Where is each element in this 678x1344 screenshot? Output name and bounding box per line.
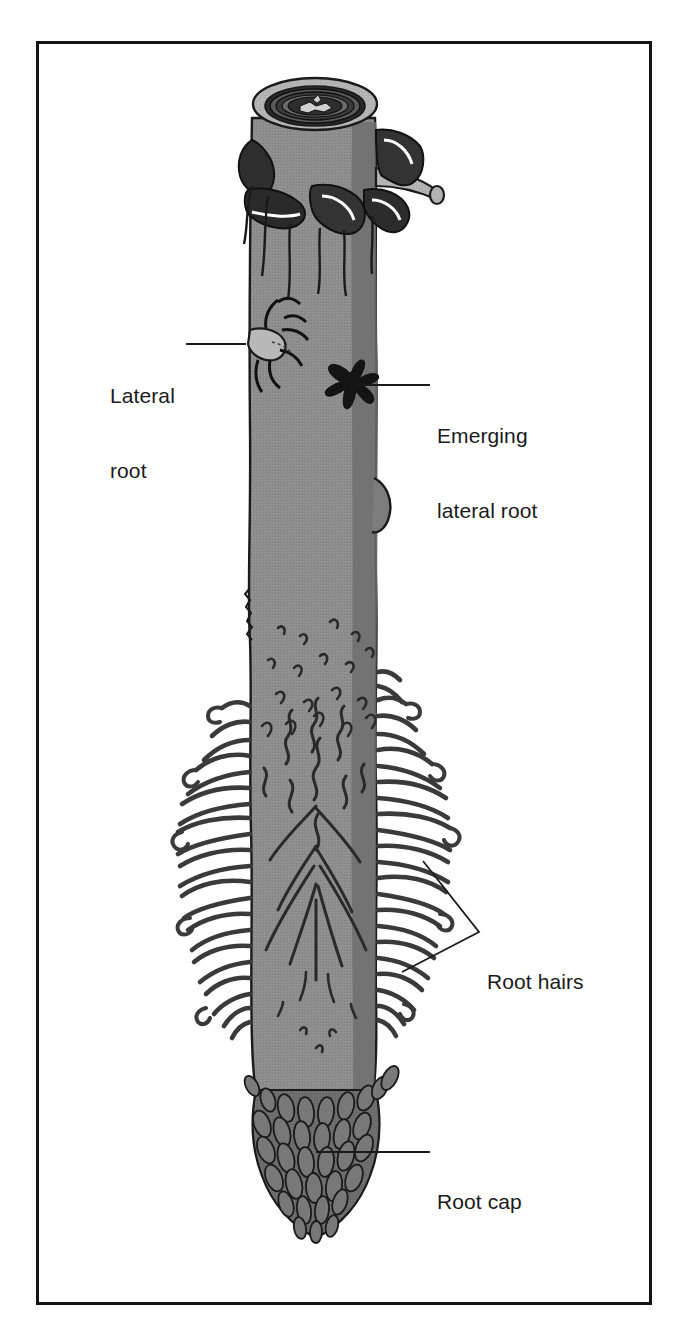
label-root-cap-line1: Root cap [437, 1189, 522, 1214]
label-emerging-lateral-root-line2: lateral root [437, 498, 537, 523]
label-lateral-root-line2: root [110, 458, 175, 483]
root-shaft-shading [351, 122, 377, 1098]
root-shaft [245, 118, 378, 1100]
label-emerging-lateral-root-line1: Emerging [437, 423, 537, 448]
root-diagram [0, 0, 678, 1344]
bark-flap-top-right [376, 130, 423, 186]
label-root-cap: Root cap [437, 1139, 522, 1239]
root-cap [242, 1063, 403, 1243]
label-lateral-root-line1: Lateral [110, 383, 175, 408]
label-root-hairs: Root hairs [487, 919, 584, 1019]
label-root-hairs-line1: Root hairs [487, 969, 584, 994]
root-bump [372, 478, 390, 532]
root-cross-section [253, 78, 377, 130]
root-hairs-left [178, 702, 250, 1038]
label-lateral-root: Lateral root [110, 333, 175, 508]
label-emerging-lateral-root: Emerging lateral root [437, 373, 537, 548]
root-hairs-right [378, 671, 450, 1036]
